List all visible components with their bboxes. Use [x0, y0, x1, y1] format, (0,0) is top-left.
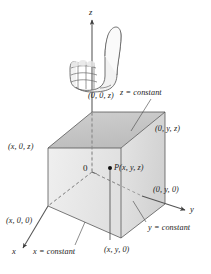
plane-label-y-constant: y = constant	[148, 224, 190, 232]
vertex-label-top-left: (x, 0, z)	[8, 143, 33, 151]
origin-label: 0	[83, 164, 88, 173]
vertex-label-y-intercept: (0, y, 0)	[153, 186, 179, 194]
vertex-label-top-back-right: (0, y, z)	[155, 125, 180, 133]
axis-label-x: x	[12, 247, 16, 256]
point-label-P: P(x, y, z)	[114, 164, 144, 172]
axis-label-z: z	[89, 8, 92, 17]
right-hand-thumbs-up-icon	[70, 27, 121, 92]
figure-canvas	[0, 0, 211, 274]
plane-label-z-constant: z = constant	[120, 89, 162, 97]
vertex-label-top-z: (0, 0, z)	[88, 92, 114, 100]
vertex-label-x-intercept: (x, 0, 0)	[6, 217, 32, 225]
coordinate-box-figure: z y x 0 (0, 0, z) (0, y, z) (x, 0, z) (0…	[0, 0, 211, 274]
vertex-label-bottom-front: (x, y, 0)	[104, 246, 129, 254]
point-P-marker	[108, 166, 112, 170]
plane-label-x-constant: x = constant	[33, 248, 75, 256]
axis-label-y: y	[190, 205, 194, 214]
